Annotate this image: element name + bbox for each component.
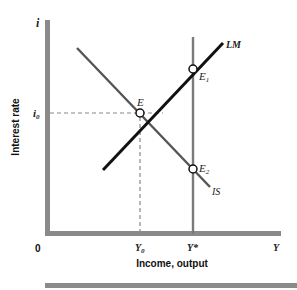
x-axis (45, 231, 281, 236)
bottom-rule (45, 283, 297, 288)
y0-sub: 0 (141, 247, 145, 255)
point-e (136, 109, 144, 117)
lm-curve (103, 43, 223, 170)
label-lm: LM (225, 39, 242, 50)
i0-sub: 0 (36, 113, 40, 121)
y-axis-title: Interest rate (10, 98, 21, 156)
label-e1: E1 (198, 70, 209, 84)
y0-label: Y0 (135, 242, 145, 255)
label-e2-sub: 2 (206, 168, 210, 176)
ystar-label: Y* (187, 242, 199, 253)
i0-label: i0 (33, 107, 40, 121)
x-axis-symbol: Y (273, 242, 280, 253)
y-axis-symbol: i (36, 16, 40, 30)
y-axis (45, 20, 50, 236)
is-lm-diagram: E E1 E2 LM IS i i0 0 Y0 Y* Y Income, out… (0, 0, 297, 290)
origin-label: 0 (35, 243, 41, 254)
label-e2: E2 (198, 162, 210, 176)
point-e2 (189, 165, 197, 173)
label-is: IS (211, 186, 220, 197)
label-e: E (136, 96, 144, 108)
label-e1-sub: 1 (206, 76, 210, 84)
x-axis-title: Income, output (136, 258, 208, 269)
point-e1 (189, 65, 197, 73)
